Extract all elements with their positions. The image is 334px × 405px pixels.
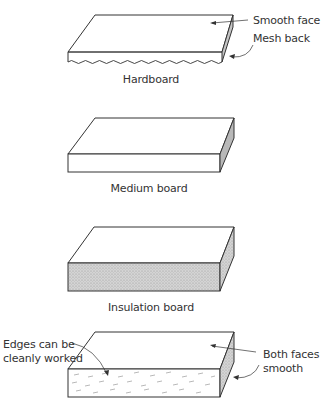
insulation-board-caption: Insulation board xyxy=(71,301,231,314)
both-faces-label-line2: smooth xyxy=(263,362,303,375)
both-faces-label-line1: Both faces xyxy=(263,348,319,361)
board-types-diagram: Smooth face Mesh back Hardboard Medium b… xyxy=(0,0,334,405)
hardboard-drawing xyxy=(68,15,253,64)
insulation-board-drawing xyxy=(68,227,234,291)
mesh-back-leader xyxy=(232,45,253,57)
hardboard-caption: Hardboard xyxy=(71,73,231,86)
medium-board-drawing xyxy=(68,118,234,172)
smooth-face-label: Smooth face xyxy=(253,14,320,27)
medium-board-caption: Medium board xyxy=(69,182,229,195)
bottom-board-drawing xyxy=(68,332,259,397)
mesh-back-label: Mesh back xyxy=(253,32,310,45)
edges-label-line1: Edges can be xyxy=(3,338,75,351)
edges-label-line2: cleanly worked xyxy=(3,352,83,365)
